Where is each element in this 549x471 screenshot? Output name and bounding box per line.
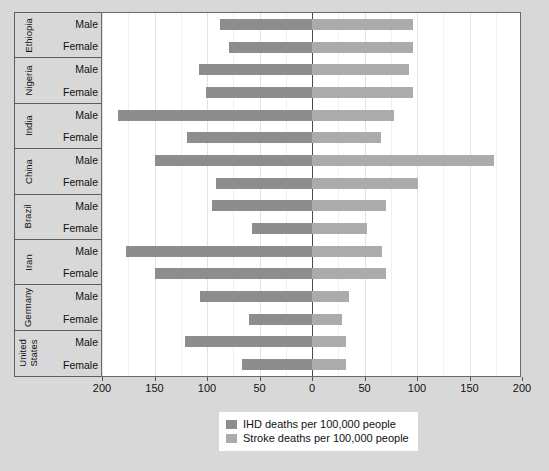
sex-label-male: Male [41, 104, 101, 126]
x-axis-tick [312, 377, 313, 381]
sex-label-group: MaleFemale [41, 104, 101, 148]
bar-stroke [312, 110, 394, 121]
x-axis-tick-label: 50 [358, 382, 370, 394]
x-axis-tick [260, 377, 261, 381]
sex-label-male: Male [41, 149, 101, 171]
country-label: Iran [15, 240, 41, 284]
country-label: Brazil [15, 195, 41, 239]
x-axis-tick [470, 377, 471, 381]
bar-ihd [126, 246, 312, 257]
chart-legend: IHD deaths per 100,000 peopleStroke deat… [219, 412, 418, 451]
x-axis-tick [417, 377, 418, 381]
gridline [470, 13, 471, 376]
bar-stroke [312, 200, 386, 211]
x-axis-tick-label: 200 [93, 382, 111, 394]
bar-stroke [312, 223, 367, 234]
bar-ihd [249, 314, 312, 325]
x-axis-tick-label: 0 [309, 382, 315, 394]
category-block-india: IndiaMaleFemale [15, 104, 101, 149]
country-label: Germany [15, 285, 41, 329]
bar-stroke [312, 336, 346, 347]
category-block-nigeria: NigeriaMaleFemale [15, 58, 101, 103]
sex-label-male: Male [41, 285, 101, 307]
sex-label-female: Female [41, 35, 101, 57]
category-block-brazil: BrazilMaleFemale [15, 195, 101, 240]
legend-label: Stroke deaths per 100,000 people [243, 432, 409, 445]
category-block-united-states: United StatesMaleFemale [15, 331, 101, 376]
bar-ihd [206, 87, 312, 98]
sex-label-male: Male [41, 58, 101, 80]
bar-ihd [200, 291, 312, 302]
sex-label-female: Female [41, 307, 101, 329]
bar-ihd [252, 223, 312, 234]
bar-ihd [118, 110, 312, 121]
x-axis-tick [207, 377, 208, 381]
bar-stroke [312, 246, 382, 257]
bar-ihd [155, 268, 313, 279]
bar-stroke [312, 132, 381, 143]
bar-stroke [312, 64, 409, 75]
bar-stroke [312, 178, 418, 189]
x-axis-tick-label: 50 [253, 382, 265, 394]
sex-label-female: Female [41, 126, 101, 148]
sex-label-group: MaleFemale [41, 240, 101, 284]
country-label: Ethiopia [15, 13, 41, 57]
x-axis: 20015010050050100150200 [101, 377, 521, 393]
sex-label-group: MaleFemale [41, 331, 101, 376]
bar-ihd [220, 19, 312, 30]
country-label: India [15, 104, 41, 148]
sex-label-male: Male [41, 331, 101, 354]
bar-stroke [312, 314, 342, 325]
legend-item: Stroke deaths per 100,000 people [226, 432, 409, 445]
category-block-germany: GermanyMaleFemale [15, 285, 101, 330]
sex-label-male: Male [41, 240, 101, 262]
gridline-minor [443, 13, 444, 376]
gridline-minor [128, 13, 129, 376]
sex-label-female: Female [41, 262, 101, 284]
legend-swatch [226, 434, 237, 443]
x-axis-tick-label: 150 [145, 382, 163, 394]
country-label: United States [15, 331, 41, 376]
bar-stroke [312, 268, 386, 279]
bar-stroke [312, 359, 346, 370]
x-axis-tick [365, 377, 366, 381]
bar-ihd [199, 64, 312, 75]
gridline [417, 13, 418, 376]
legend-swatch [226, 420, 237, 429]
legend-item: IHD deaths per 100,000 people [226, 418, 409, 431]
bar-stroke [312, 291, 349, 302]
sex-label-group: MaleFemale [41, 58, 101, 102]
x-axis-tick-label: 100 [408, 382, 426, 394]
plot-area [101, 12, 521, 377]
category-block-china: ChinaMaleFemale [15, 149, 101, 194]
country-label: China [15, 149, 41, 193]
sex-label-male: Male [41, 13, 101, 35]
bar-ihd [187, 132, 312, 143]
gridline-minor [496, 13, 497, 376]
country-label: Nigeria [15, 58, 41, 102]
bar-ihd [229, 42, 312, 53]
legend-label: IHD deaths per 100,000 people [243, 418, 396, 431]
sex-label-female: Female [41, 81, 101, 103]
bar-ihd [212, 200, 312, 211]
bar-ihd [155, 155, 313, 166]
bar-stroke [312, 42, 413, 53]
bar-ihd [216, 178, 312, 189]
bar-ihd [242, 359, 312, 370]
sex-label-female: Female [41, 353, 101, 376]
gridline [155, 13, 156, 376]
category-block-iran: IranMaleFemale [15, 240, 101, 285]
bar-ihd [185, 336, 312, 347]
bar-stroke [312, 87, 413, 98]
sex-label-female: Female [41, 171, 101, 193]
gridline-minor [181, 13, 182, 376]
sex-label-group: MaleFemale [41, 195, 101, 239]
category-block-ethiopia: EthiopiaMaleFemale [15, 13, 101, 58]
x-axis-tick-label: 150 [460, 382, 478, 394]
x-axis-tick [102, 377, 103, 381]
bar-stroke [312, 19, 413, 30]
bar-stroke [312, 155, 494, 166]
x-axis-tick [522, 377, 523, 381]
sex-label-group: MaleFemale [41, 285, 101, 329]
gridline [102, 13, 103, 376]
